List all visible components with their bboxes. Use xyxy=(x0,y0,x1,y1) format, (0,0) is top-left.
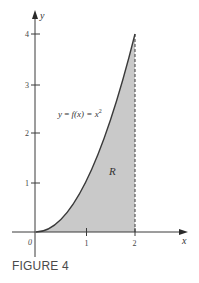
chart: y x 0 1 2 1 2 3 4 y = f(x) = x2 R xyxy=(0,0,199,283)
x-tick-label-1: 1 xyxy=(85,239,89,248)
y-axis-label: y xyxy=(39,10,45,21)
x-tick-label-2: 2 xyxy=(133,239,137,248)
function-label: y = f(x) = x2 xyxy=(57,108,102,119)
region-label-r: R xyxy=(108,165,116,177)
origin-label: 0 xyxy=(28,238,32,247)
y-tick-label-4: 4 xyxy=(25,30,29,39)
y-tick-label-1: 1 xyxy=(25,179,29,188)
function-label-rest: (x) = x xyxy=(74,109,99,119)
function-label-exponent: 2 xyxy=(99,108,102,114)
figure-caption: FIGURE 4 xyxy=(12,259,69,273)
y-tick-label-2: 2 xyxy=(25,129,29,138)
function-label-eq: = xyxy=(62,109,72,119)
y-tick-label-3: 3 xyxy=(25,81,29,90)
x-axis-label: x xyxy=(181,235,187,246)
shaded-region-r-fill xyxy=(36,34,135,232)
y-axis-arrow-icon xyxy=(32,10,38,19)
